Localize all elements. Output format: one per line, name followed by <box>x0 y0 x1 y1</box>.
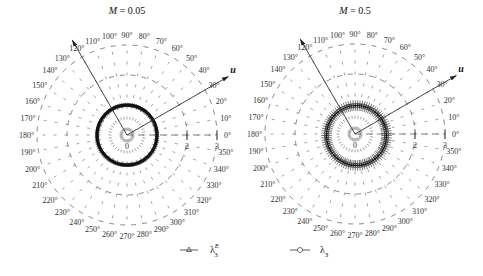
polar-charts: M = 0.050°10°20°30°40°50°60°70°80°90°100… <box>0 0 483 276</box>
angle-label: 180° <box>19 131 34 140</box>
angle-label: 250° <box>313 224 328 233</box>
angle-label: 270° <box>119 232 134 241</box>
angle-label: 90° <box>121 31 132 40</box>
angle-label: 10° <box>220 114 231 123</box>
grid-spoke <box>69 138 124 203</box>
grid-spoke <box>128 139 143 223</box>
grid-spoke <box>359 136 433 179</box>
angle-label: 10° <box>448 113 459 122</box>
grid-spoke <box>131 136 215 151</box>
angle-label: 50° <box>414 53 425 62</box>
angle-label: 100° <box>330 31 345 40</box>
angle-label: 150° <box>32 81 47 90</box>
angle-label: 220° <box>270 195 285 204</box>
angle-label: 60° <box>172 44 183 53</box>
grid-spoke <box>82 139 125 213</box>
angle-label: 70° <box>384 36 395 45</box>
angle-label: 170° <box>20 114 35 123</box>
arrow-label: u <box>458 63 464 74</box>
grid-spoke <box>358 137 413 202</box>
angle-label: 240° <box>297 217 312 226</box>
grid-spoke <box>339 138 354 222</box>
angle-label: 240° <box>69 218 84 227</box>
angle-label: 340° <box>214 165 229 174</box>
angle-label: 280° <box>137 230 152 239</box>
angle-label: 100° <box>102 32 117 41</box>
data-ring <box>327 106 387 166</box>
angle-label: 350° <box>218 148 233 157</box>
angle-label: 260° <box>102 230 117 239</box>
radial-tick-label: 2 <box>413 141 417 150</box>
legend-item-1: λ3 <box>290 244 329 259</box>
angle-label: 20° <box>216 97 227 106</box>
angle-label: 130° <box>283 53 298 62</box>
legend-label: λ3 <box>320 244 329 259</box>
angle-label: 210° <box>32 181 47 190</box>
angle-label: 310° <box>184 208 199 217</box>
angle-label: 280° <box>365 229 380 238</box>
chart-title: M = 0.5 <box>338 5 370 16</box>
angle-label: 70° <box>156 37 167 46</box>
angle-label: 140° <box>42 66 57 75</box>
grid-spoke <box>356 138 371 222</box>
angle-label: 220° <box>42 196 57 205</box>
polar-chart-0: M = 0.050°10°20°30°40°50°60°70°80°90°100… <box>19 5 236 241</box>
angle-label: 160° <box>25 97 40 106</box>
angle-label: 350° <box>446 147 461 156</box>
angle-label: 190° <box>20 148 35 157</box>
angle-label: 170° <box>248 113 263 122</box>
angle-label: 230° <box>55 208 70 217</box>
angle-label: 260° <box>330 229 345 238</box>
angle-label: 20° <box>444 96 455 105</box>
angle-label: 180° <box>247 130 262 139</box>
grid-spoke <box>131 119 215 134</box>
angle-label: 190° <box>248 147 263 156</box>
grid-spoke <box>359 103 439 132</box>
grid-spoke <box>38 119 122 134</box>
arrow-label: u <box>230 64 236 75</box>
direction-arrow <box>300 39 355 134</box>
grid-spoke <box>357 138 386 218</box>
grid-spoke <box>339 45 354 129</box>
grid-spoke <box>297 65 352 130</box>
angle-label: 60° <box>400 43 411 52</box>
grid-spoke <box>129 139 172 213</box>
angle-label: 50° <box>186 54 197 63</box>
grid-spoke <box>111 46 126 130</box>
angle-label: 320° <box>196 196 211 205</box>
angle-label: 320° <box>424 195 439 204</box>
chart-title: M = 0.05 <box>108 5 145 16</box>
angle-label: 310° <box>412 207 427 216</box>
grid-spoke <box>359 135 443 150</box>
angle-label: 80° <box>139 32 150 41</box>
angle-label: 110° <box>313 36 328 45</box>
radial-origin-label: 0 <box>353 141 357 150</box>
angle-label: 140° <box>270 65 285 74</box>
angle-label: 210° <box>260 180 275 189</box>
angle-label: 230° <box>283 207 298 216</box>
angle-label: 300° <box>398 217 413 226</box>
angle-label: 110° <box>85 37 100 46</box>
angle-label: 150° <box>260 80 275 89</box>
legend-label: λE3 <box>210 242 220 259</box>
grid-spoke <box>128 46 143 130</box>
grid-spoke <box>130 66 185 131</box>
polar-chart-1: M = 0.50°10°20°30°40°50°60°70°80°90°100°… <box>247 5 464 240</box>
grid-spoke <box>356 45 371 129</box>
radial-tick-label: 3 <box>215 142 219 151</box>
grid-spoke <box>111 139 126 223</box>
grid-spoke <box>38 136 122 151</box>
grid-spoke <box>358 65 413 130</box>
angle-label: 130° <box>55 54 70 63</box>
angle-label: 80° <box>367 31 378 40</box>
angle-label: 270° <box>347 231 362 240</box>
grid-spoke <box>277 136 351 179</box>
angle-label: 160° <box>253 96 268 105</box>
angle-label: 40° <box>198 66 209 75</box>
angle-label: 200° <box>25 165 40 174</box>
angle-label: 300° <box>170 218 185 227</box>
angle-label: 330° <box>434 180 449 189</box>
angle-label: 330° <box>206 181 221 190</box>
radial-origin-label: 0 <box>125 142 129 151</box>
angle-label: 0° <box>452 130 459 139</box>
